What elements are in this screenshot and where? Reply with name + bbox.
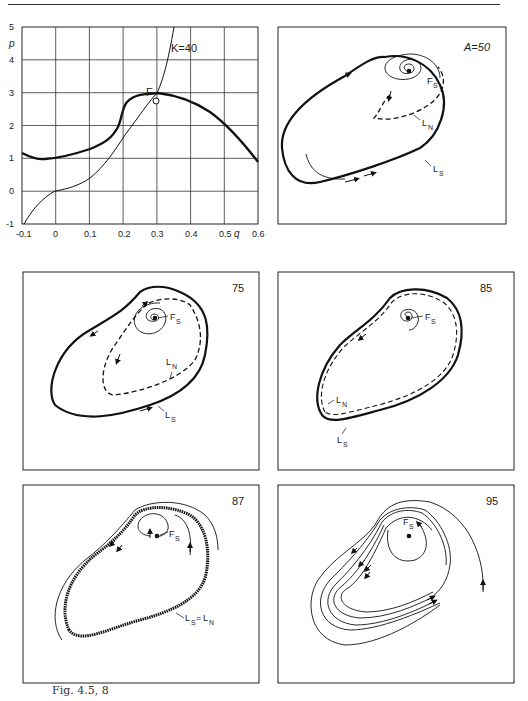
- svg-text:L: L: [166, 357, 171, 367]
- k40-label: K=40: [171, 42, 197, 54]
- svg-text:4: 4: [9, 55, 14, 65]
- panel-label: 85: [480, 282, 492, 294]
- panel-87: 87 F S L S = L N: [23, 485, 259, 683]
- focus-fs-point: [153, 316, 158, 321]
- limit-cycle-ls: [51, 287, 207, 417]
- fixed-point-f-marker: [153, 98, 159, 104]
- svg-text:N: N: [172, 363, 177, 370]
- svg-text:N: N: [342, 401, 347, 408]
- svg-text:0.3: 0.3: [151, 229, 164, 239]
- figure-canvas: F K=40 5 4 3 2 1 0 -1 p -0.1 0 0.1 0.2 0…: [0, 0, 528, 701]
- svg-text:S: S: [439, 170, 444, 177]
- svg-text:0.6: 0.6: [252, 229, 265, 239]
- fixed-point-f-label: F: [146, 86, 153, 98]
- focus-fs-point: [406, 316, 411, 321]
- panel-75: 75 F S L N L S: [23, 272, 259, 470]
- svg-text:3: 3: [9, 88, 14, 98]
- spiral-fs: [134, 303, 166, 334]
- focus-fs-point: [155, 534, 160, 539]
- svg-text:0.1: 0.1: [84, 229, 97, 239]
- x-axis-label: q: [234, 228, 240, 239]
- svg-text:0: 0: [9, 186, 14, 196]
- svg-text:L: L: [337, 435, 342, 445]
- svg-text:1: 1: [9, 153, 14, 163]
- svg-text:L: L: [336, 395, 341, 405]
- svg-text:S: S: [409, 523, 414, 530]
- svg-text:5: 5: [9, 22, 14, 32]
- spiral-fs: [138, 514, 191, 555]
- panel-95: 95 F S: [278, 485, 514, 683]
- svg-text:S: S: [171, 416, 176, 423]
- trajectory: [306, 154, 345, 179]
- svg-text:-1: -1: [6, 219, 14, 229]
- trajectories: [311, 501, 483, 645]
- panel-a50: A=50 F S L N L S: [278, 27, 506, 224]
- panel-label: 87: [232, 495, 244, 507]
- svg-text:L: L: [203, 613, 208, 623]
- unstable-cycle-ln: [321, 294, 456, 415]
- svg-text:N: N: [209, 619, 214, 626]
- x-tick-labels: -0.1 0 0.1 0.2 0.3 0.4 0.5 0.6: [16, 229, 265, 239]
- svg-text:0: 0: [53, 229, 58, 239]
- svg-text:N: N: [428, 124, 433, 131]
- y-tick-labels: 5 4 3 2 1 0 -1: [6, 22, 14, 229]
- svg-text:0.4: 0.4: [185, 229, 198, 239]
- svg-text:=: =: [196, 613, 201, 623]
- ls-label: L: [433, 164, 438, 174]
- grid: [22, 27, 258, 224]
- svg-text:2: 2: [9, 121, 14, 131]
- svg-text:0.2: 0.2: [118, 229, 131, 239]
- panel-85: 85 F S L N L S: [278, 272, 514, 470]
- svg-text:S: S: [175, 535, 180, 542]
- panel-label: 75: [232, 282, 244, 294]
- focus-fs-point: [407, 69, 412, 74]
- panel-label: A=50: [463, 41, 491, 53]
- svg-text:0.5: 0.5: [219, 229, 232, 239]
- svg-text:S: S: [176, 318, 181, 325]
- svg-text:L: L: [185, 613, 190, 623]
- svg-text:-0.1: -0.1: [16, 229, 32, 239]
- svg-text:S: S: [343, 441, 348, 448]
- focus-fs-point: [407, 534, 412, 539]
- figure-caption: Fig. 4.5, 8: [52, 684, 109, 697]
- svg-text:S: S: [431, 318, 436, 325]
- panel-label: 95: [486, 495, 498, 507]
- svg-text:S: S: [433, 82, 438, 89]
- svg-text:L: L: [165, 410, 170, 420]
- ln-label: L: [422, 118, 427, 128]
- p-curve: [22, 93, 258, 162]
- phase-chart: F K=40 5 4 3 2 1 0 -1 p -0.1 0 0.1 0.2 0…: [6, 22, 265, 239]
- y-axis-label: p: [8, 38, 15, 49]
